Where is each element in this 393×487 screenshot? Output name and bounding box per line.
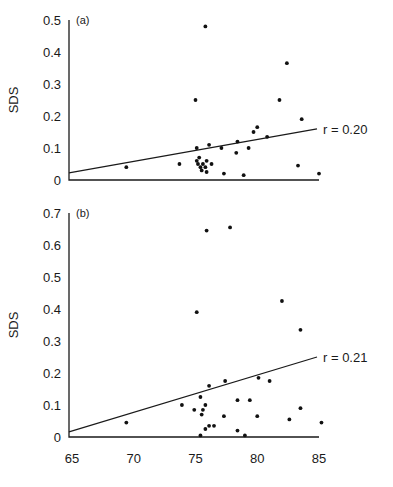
- data-point: [194, 98, 198, 102]
- panel-a-points: [124, 25, 320, 178]
- data-point: [207, 424, 211, 428]
- data-point: [287, 418, 291, 422]
- x-tick-label: 75: [188, 451, 202, 466]
- data-point: [210, 162, 214, 166]
- data-point: [200, 413, 204, 417]
- data-point: [280, 299, 284, 303]
- y-tick-label: 0.1: [43, 141, 61, 156]
- data-point: [197, 156, 201, 160]
- y-tick-label: 0.5: [43, 13, 61, 28]
- panel-b: 00.10.20.30.40.50.60.7 SDS (b) r = 0.21 …: [6, 206, 367, 466]
- data-point: [124, 165, 128, 169]
- data-point: [247, 146, 251, 150]
- data-point: [243, 434, 247, 438]
- data-point: [199, 434, 203, 438]
- data-point: [285, 61, 289, 65]
- data-point: [195, 146, 199, 150]
- x-tick-label: 65: [65, 451, 79, 466]
- data-point: [203, 25, 207, 29]
- data-point: [299, 328, 303, 332]
- data-point: [205, 229, 209, 233]
- data-point: [242, 173, 246, 177]
- data-point: [255, 125, 259, 129]
- data-point: [252, 130, 256, 134]
- panel-b-y-ticks: 00.10.20.30.40.50.60.7: [43, 206, 61, 445]
- y-tick-label: 0.4: [43, 45, 61, 60]
- panel-a-y-axis-label: SDS: [6, 86, 21, 113]
- data-point: [201, 408, 205, 412]
- data-point: [236, 429, 240, 433]
- panel-b-label: (b): [76, 207, 89, 219]
- data-point: [300, 117, 304, 121]
- y-tick-label: 0.4: [43, 302, 61, 317]
- data-point: [222, 172, 226, 176]
- data-point: [222, 414, 226, 418]
- y-tick-label: 0.3: [43, 77, 61, 92]
- data-point: [265, 135, 269, 139]
- data-point: [195, 310, 199, 314]
- data-point: [220, 146, 224, 150]
- x-tick-label: 80: [250, 451, 264, 466]
- y-tick-label: 0: [54, 173, 61, 188]
- data-point: [203, 427, 207, 431]
- data-point: [317, 172, 321, 176]
- data-point: [203, 165, 207, 169]
- data-point: [201, 162, 205, 166]
- y-tick-label: 0.3: [43, 334, 61, 349]
- data-point: [178, 162, 182, 166]
- data-point: [320, 421, 324, 425]
- scatter-figure: 00.10.20.30.40.5 SDS (a) r = 0.20 00.10.…: [0, 0, 393, 487]
- data-point: [236, 140, 240, 144]
- panel-b-r-label: r = 0.21: [323, 350, 367, 365]
- x-tick-label: 70: [127, 451, 141, 466]
- y-tick-label: 0.2: [43, 366, 61, 381]
- data-point: [236, 398, 240, 402]
- data-point: [257, 376, 261, 380]
- data-point: [299, 406, 303, 410]
- panel-b-x-ticks: 6570758085: [65, 451, 326, 466]
- data-point: [203, 403, 207, 407]
- data-point: [248, 398, 252, 402]
- panel-a-y-ticks: 00.10.20.30.40.5: [43, 13, 61, 188]
- panel-b-fit-line: [69, 357, 317, 432]
- panel-b-y-axis-label: SDS: [6, 311, 21, 338]
- data-point: [207, 143, 211, 147]
- data-point: [268, 379, 272, 383]
- y-tick-label: 0.7: [43, 206, 61, 221]
- data-point: [192, 408, 196, 412]
- y-tick-label: 0.5: [43, 270, 61, 285]
- y-tick-label: 0.2: [43, 109, 61, 124]
- data-point: [205, 159, 209, 163]
- data-point: [228, 226, 232, 230]
- data-point: [199, 395, 203, 399]
- data-point: [196, 162, 200, 166]
- data-point: [255, 414, 259, 418]
- data-point: [124, 421, 128, 425]
- data-point: [200, 169, 204, 173]
- panel-b-axes: [69, 213, 319, 437]
- data-point: [205, 170, 209, 174]
- data-point: [212, 424, 216, 428]
- panel-a-r-label: r = 0.20: [323, 122, 367, 137]
- data-point: [223, 379, 227, 383]
- panel-a: 00.10.20.30.40.5 SDS (a) r = 0.20: [6, 13, 367, 188]
- panel-a-fit-line: [69, 129, 317, 173]
- y-tick-label: 0.1: [43, 398, 61, 413]
- data-point: [296, 164, 300, 168]
- y-tick-label: 0.6: [43, 238, 61, 253]
- y-tick-label: 0: [54, 430, 61, 445]
- data-point: [180, 403, 184, 407]
- data-point: [234, 151, 238, 155]
- panel-a-label: (a): [76, 14, 89, 26]
- x-tick-label: 85: [312, 451, 326, 466]
- data-point: [278, 98, 282, 102]
- data-point: [207, 384, 211, 388]
